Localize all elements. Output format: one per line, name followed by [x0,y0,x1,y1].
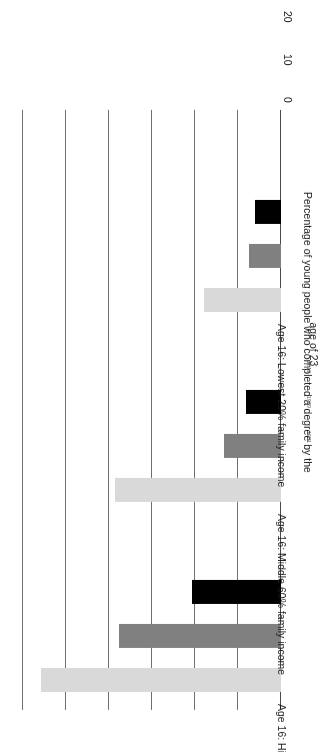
axis-tick-20: 20 [282,11,294,23]
bar-lowest-1989 [249,244,281,268]
gridline-10 [237,110,238,710]
axis-tick-10: 10 [282,54,294,66]
legend-item-1981: 1981 [306,431,312,443]
bar-highest-2012 [41,668,281,692]
legend-item-1989: 1989 [306,396,312,408]
axis-title-line2: age of 23 [306,194,319,494]
bar-middle-1989 [224,434,281,458]
gridline-50 [65,110,66,710]
plot-area [23,110,281,710]
gridline-20 [194,110,195,710]
gridline-30 [151,110,152,710]
axis-tick-0: 0 [282,97,294,103]
category-label-lowest: Age 16: Lowest 20% family income [276,324,288,487]
bar-lowest-2012 [204,288,281,312]
bar-highest-1989 [119,624,281,648]
legend-item-2012: 2012 [306,361,312,373]
gridline-40 [108,110,109,710]
bar-middle-2012 [115,478,281,502]
category-label-highest: Age 16: Highest 20% family income [276,704,288,752]
bar-highest-1981 [192,580,281,604]
gridline-60 [22,110,23,710]
category-label-middle: Age 16: Middle 60% family income [276,514,288,675]
bar-lowest-1981 [255,200,281,224]
bar-chart-figure: Age 16: Highest 20% family income Age 16… [0,0,326,752]
